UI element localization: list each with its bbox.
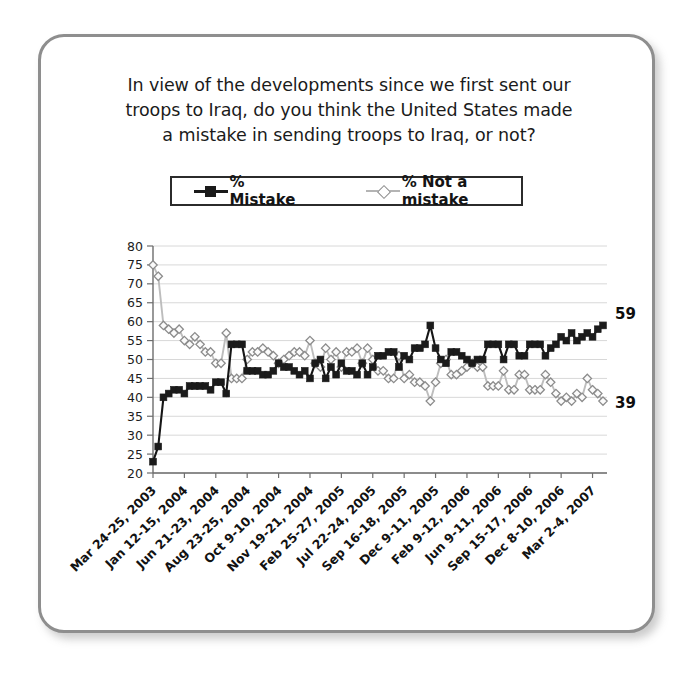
data-point-not-a-mistake [389, 374, 397, 382]
data-point-not-a-mistake [321, 344, 329, 352]
y-tick-label: 35 [127, 409, 143, 424]
series-end-labels: 5939 [615, 305, 636, 412]
data-point-not-a-mistake [426, 397, 434, 405]
data-point-mistake [317, 356, 324, 363]
y-tick-label: 30 [127, 428, 143, 443]
data-point-mistake [301, 367, 308, 374]
data-point-not-a-mistake [431, 378, 439, 386]
data-point-mistake [563, 337, 570, 344]
data-point-mistake [537, 341, 544, 348]
y-tick-label: 80 [127, 239, 143, 254]
data-point-mistake [364, 371, 371, 378]
data-point-mistake [328, 364, 335, 371]
data-point-mistake [511, 341, 518, 348]
data-point-mistake [181, 390, 188, 397]
end-label-not-a-mistake: 39 [615, 394, 636, 412]
data-point-mistake [521, 352, 528, 359]
data-point-mistake [359, 360, 366, 367]
data-point-mistake [422, 341, 429, 348]
data-point-not-a-mistake [520, 370, 528, 378]
figure-frame: In view of the developments since we fir… [38, 34, 655, 633]
data-point-not-a-mistake [149, 261, 157, 269]
data-point-mistake [207, 386, 214, 393]
data-point-mistake [542, 352, 549, 359]
y-axis-ticks: 20253035404550556065707580 [127, 239, 153, 481]
data-point-not-a-mistake [583, 374, 591, 382]
data-point-mistake [396, 364, 403, 371]
data-point-mistake [369, 364, 376, 371]
data-point-not-a-mistake [478, 363, 486, 371]
y-tick-label: 70 [127, 276, 143, 291]
data-point-mistake [589, 333, 596, 340]
y-tick-label: 75 [127, 257, 143, 272]
data-point-not-a-mistake [499, 367, 507, 375]
y-tick-label: 65 [127, 295, 143, 310]
data-point-mistake [406, 356, 413, 363]
y-tick-label: 40 [127, 390, 143, 405]
data-point-mistake [338, 360, 345, 367]
data-point-not-a-mistake [238, 374, 246, 382]
y-tick-label: 20 [127, 466, 143, 481]
end-label-mistake: 59 [615, 305, 636, 323]
data-point-mistake [239, 341, 246, 348]
data-point-mistake [427, 322, 434, 329]
x-axis-ticks: Mar 24-25, 2003Jan 12-15, 2004Jun 21-23,… [67, 473, 599, 575]
data-point-mistake [479, 356, 486, 363]
data-point-mistake [354, 371, 361, 378]
data-point-not-a-mistake [222, 329, 230, 337]
data-point-mistake [155, 443, 162, 450]
data-point-mistake [495, 341, 502, 348]
data-point-not-a-mistake [306, 336, 314, 344]
data-point-mistake [150, 458, 157, 465]
data-point-mistake [600, 322, 607, 329]
line-chart-svg: 20253035404550556065707580 Mar 24-25, 20… [41, 37, 658, 636]
data-point-mistake [270, 367, 277, 374]
data-series [149, 261, 607, 465]
data-point-not-a-mistake [536, 386, 544, 394]
data-point-not-a-mistake [154, 272, 162, 280]
data-point-mistake [500, 356, 507, 363]
y-tick-label: 45 [127, 371, 143, 386]
data-point-not-a-mistake [510, 386, 518, 394]
data-point-mistake [333, 371, 340, 378]
data-point-mistake [432, 345, 439, 352]
y-tick-label: 25 [127, 447, 143, 462]
data-point-not-a-mistake [494, 382, 502, 390]
data-point-not-a-mistake [363, 344, 371, 352]
chart-plot-area: 20253035404550556065707580 Mar 24-25, 20… [41, 37, 658, 636]
data-point-mistake [443, 360, 450, 367]
data-point-mistake [322, 375, 329, 382]
data-point-not-a-mistake [206, 348, 214, 356]
data-point-mistake [553, 341, 560, 348]
y-tick-label: 60 [127, 314, 143, 329]
y-tick-label: 50 [127, 352, 143, 367]
y-tick-label: 55 [127, 333, 143, 348]
data-point-not-a-mistake [217, 359, 225, 367]
data-point-mistake [223, 390, 230, 397]
data-point-mistake [307, 375, 314, 382]
data-point-mistake [568, 330, 575, 337]
data-point-mistake [218, 379, 225, 386]
data-point-mistake [390, 349, 397, 356]
